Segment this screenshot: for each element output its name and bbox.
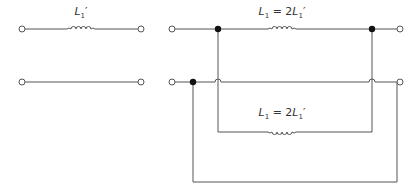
junction-node-icon <box>369 26 375 32</box>
junction-node-icon <box>215 26 221 32</box>
terminal-icon <box>19 79 25 85</box>
terminal-icon <box>397 79 403 85</box>
inductor-label-top: L1 = 2L1′ <box>259 5 306 20</box>
terminal-icon <box>19 26 25 32</box>
label-equals: = 2 <box>269 5 292 18</box>
terminal-icon <box>397 26 403 32</box>
inductor-top-icon <box>268 27 296 30</box>
inductor-label-left: L1′ <box>74 5 87 20</box>
terminal-icon <box>169 26 175 32</box>
label-prime: ′ <box>85 5 88 18</box>
junction-node-icon <box>190 79 196 85</box>
label-prime: ′ <box>303 106 306 119</box>
label-equals: = 2 <box>269 106 292 119</box>
circuit-diagram: L1′ L1 = 2L1′ L1 = 2L1′ <box>0 0 410 191</box>
terminal-icon <box>138 26 144 32</box>
terminal-icon <box>138 79 144 85</box>
circuit-svg <box>0 0 410 191</box>
label-prime: ′ <box>303 5 306 18</box>
terminal-icon <box>169 79 175 85</box>
inductor-left-icon <box>67 27 95 30</box>
inductor-bottom-icon <box>268 132 296 135</box>
inductor-label-bottom: L1 = 2L1′ <box>259 106 306 121</box>
